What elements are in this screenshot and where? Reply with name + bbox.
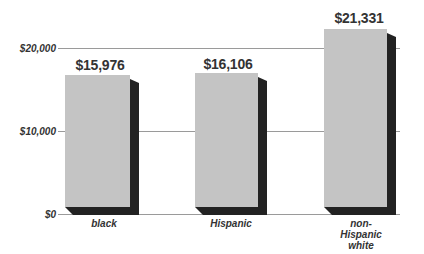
x-label-hispanic: Hispanic [210,218,252,229]
bar-shadow-non-hispanic-white [387,33,396,215]
y-tick-20000: $20,000 [20,43,56,54]
x-label-line-2: white [330,240,393,251]
bar-base-non-hispanic-white [324,207,396,215]
bar-shadow-black [130,79,139,215]
bar-chart: $20,000 $10,000 $0 $15,976 black $16,106… [0,0,424,254]
value-label-hispanic: $16,106 [203,56,252,72]
value-label-black: $15,976 [75,57,124,73]
bar-base-hispanic [195,207,267,215]
bar-black [65,75,130,207]
x-label-line-1: non-Hispanic [330,218,393,240]
bar-shadow-hispanic [258,77,267,215]
x-label-black: black [91,218,117,229]
bar-hispanic [195,73,258,207]
bar-non-hispanic-white [324,29,387,207]
value-label-non-hispanic-white: $21,331 [334,10,383,26]
y-tick-0: $0 [45,209,56,220]
y-tick-10000: $10,000 [20,126,56,137]
x-label-non-hispanic-white: non-Hispanic white [330,218,393,251]
bar-base-black [65,207,139,215]
